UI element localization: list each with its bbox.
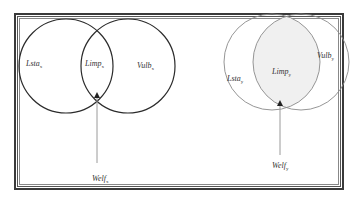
label-limp-y: Limpy (272, 68, 291, 77)
label-welf-y: Welfy (272, 162, 288, 171)
label-welf-x: Welfx (92, 175, 108, 184)
venn-diagram-x (19, 19, 175, 163)
intersection-fill-y (253, 14, 349, 110)
venn-diagrams (0, 0, 357, 199)
label-vulb-x: Vulbx (137, 62, 154, 71)
label-lsta-y: Lstay (227, 75, 243, 84)
venn-diagram-y (224, 14, 349, 155)
label-vulb-y: Vulby (317, 52, 334, 61)
label-lsta-x: Lstax (26, 60, 42, 69)
label-limp-x: Limpx (85, 60, 104, 69)
